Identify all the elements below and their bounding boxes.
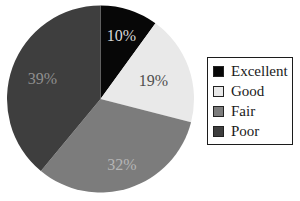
legend-label-good: Good [231,84,264,99]
legend-item-excellent: Excellent [213,61,292,81]
pie-slice-label-good: 19% [139,72,168,89]
pie-chart: 10%19%32%39% [0,0,201,201]
legend-swatch-fair [213,106,224,117]
legend-swatch-poor [213,126,224,137]
legend-item-poor: Poor [213,121,292,141]
legend-box: Excellent Good Fair Poor [207,57,293,145]
legend-swatch-good [213,86,224,97]
pie-slice-label-excellent: 10% [107,27,136,44]
legend-item-good: Good [213,81,292,101]
legend-swatch-excellent [213,66,224,77]
legend-label-poor: Poor [231,124,259,139]
pie-slice-label-fair: 32% [107,156,136,173]
legend-label-excellent: Excellent [231,64,288,79]
legend-item-fair: Fair [213,101,292,121]
pie-slice-label-poor: 39% [28,70,57,87]
pie-chart-figure: 10%19%32%39% Excellent Good Fair Poor [0,0,300,201]
legend-label-fair: Fair [231,104,255,119]
